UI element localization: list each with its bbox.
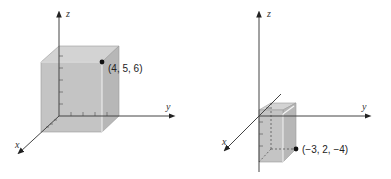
figure-right: z y x (−3, 2, −4) [221,8,368,172]
x-axis-label: x [14,139,20,150]
point-marker [100,60,105,65]
figure-left: z y x (4, 5, 6) [14,8,172,152]
x-axis-label: x [221,136,227,147]
box-neg3-2-neg4 [259,103,296,162]
x-axis [20,116,59,152]
point-marker [294,147,299,152]
point-label: (−3, 2, −4) [302,144,348,155]
box-4-5-6 [41,46,119,132]
y-axis-label: y [361,101,367,112]
y-axis-label: y [165,101,171,112]
diagram-canvas: z y x (4, 5, 6) [0,0,391,179]
z-axis-label: z [266,8,271,19]
point-label: (4, 5, 6) [108,63,142,74]
z-axis-label: z [65,8,70,19]
